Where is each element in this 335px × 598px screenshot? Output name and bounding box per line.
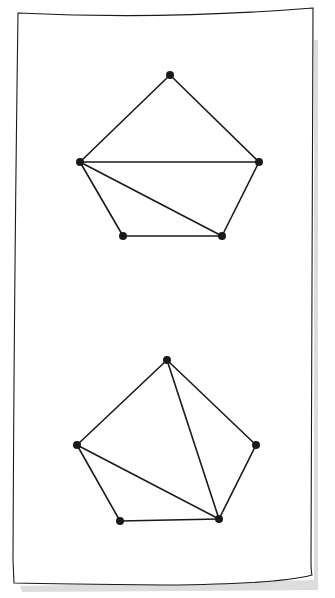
vertex-dot: [73, 441, 81, 449]
vertex-dot: [166, 71, 174, 79]
vertex-dot: [252, 441, 260, 449]
vertex-dot: [218, 232, 226, 240]
vertex-dot: [163, 356, 171, 364]
paper-sheet: [13, 8, 313, 585]
vertex-dot: [215, 515, 223, 523]
vertex-dot: [116, 517, 124, 525]
diagram-canvas: [0, 0, 335, 598]
vertex-dot: [76, 158, 84, 166]
vertex-dot: [119, 232, 127, 240]
vertex-dot: [255, 158, 263, 166]
